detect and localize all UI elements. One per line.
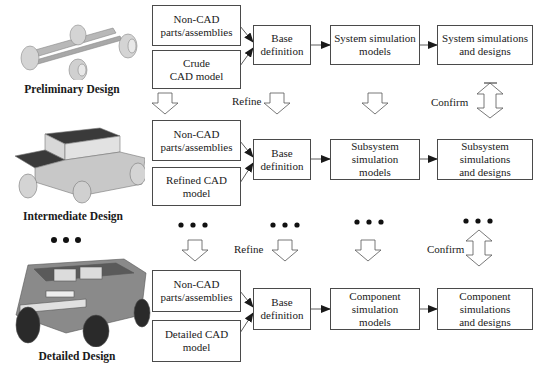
stage-label-intermediate: Intermediate Design <box>18 210 128 222</box>
stage-label-preliminary: Preliminary Design <box>22 83 122 95</box>
simulation-models-box-3: Component simulation models <box>330 288 420 330</box>
simulation-models-box-1: System simulation models <box>330 25 420 65</box>
simulations-designs-box-2: Subsystem simulations and designs <box>437 139 533 180</box>
cad-model-box-2: Refined CAD model <box>152 167 241 206</box>
refine-arrows-1 <box>152 93 388 114</box>
detailed-model-image <box>6 255 151 347</box>
noncad-parts-box-3: Non-CAD parts/assemblies <box>152 270 241 312</box>
base-definition-box-1: Base definition <box>253 25 311 65</box>
intermediate-model-image <box>10 124 145 204</box>
confirm-arrow-1 <box>477 83 503 118</box>
cad-model-box-1: Crude CAD model <box>152 50 241 89</box>
simulations-designs-box-1: System simulations and designs <box>437 25 533 65</box>
confirm-label-1: Confirm <box>431 96 468 108</box>
base-definition-box-2: Base definition <box>253 139 311 180</box>
stage-label-detailed: Detailed Design <box>22 350 132 362</box>
refine-label-1: Refine <box>232 95 261 107</box>
simulation-models-box-2: Subsystem simulation models <box>330 139 420 180</box>
continuation-dots <box>51 218 493 243</box>
noncad-parts-box-1: Non-CAD parts/assemblies <box>152 5 241 46</box>
confirm-arrow-2 <box>466 230 492 266</box>
confirm-label-2: Confirm <box>427 243 464 255</box>
chassis-model-image <box>8 10 143 80</box>
base-definition-box-3: Base definition <box>253 288 311 330</box>
refine-label-2: Refine <box>234 243 263 255</box>
noncad-parts-box-2: Non-CAD parts/assemblies <box>152 120 241 161</box>
design-process-diagram: Preliminary Design Intermediate Design D… <box>0 0 545 370</box>
simulations-designs-box-3: Component simulations and designs <box>437 288 533 330</box>
cad-model-box-3: Detailed CAD model <box>152 320 241 362</box>
refine-arrows-2 <box>182 240 381 261</box>
